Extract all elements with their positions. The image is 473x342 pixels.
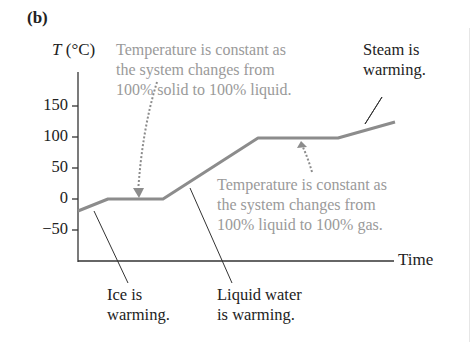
ice-annotation: Ice is warming. [107,285,170,325]
liquid-annotation: Liquid water is warming. [217,285,302,325]
melt-arrowhead-icon [133,188,144,198]
x-axis-label: Time [398,250,433,270]
steam-leader-line [365,97,382,124]
y-axis-ticks [72,106,78,230]
steam-annotation: Steam is warming. [363,40,426,80]
ice-leader-line [94,211,128,283]
boil-arrowhead-icon [297,141,307,148]
melt-annotation: Temperature is constant as the system ch… [116,40,292,100]
boil-annotation: Temperature is constant as the system ch… [217,175,387,235]
page-edge-divider [469,28,470,342]
boil-dotted-arrow [302,145,312,172]
